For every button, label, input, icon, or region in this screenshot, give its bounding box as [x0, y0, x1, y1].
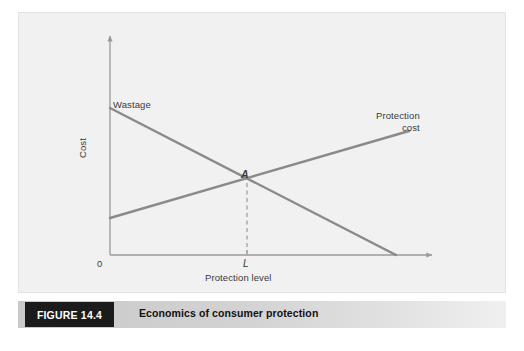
- figure-caption-text: Economics of consumer protection: [139, 307, 318, 319]
- wastage-line: [110, 108, 396, 255]
- x-axis-title: Protection level: [205, 272, 272, 283]
- origin-label: 0: [97, 258, 102, 269]
- protection-cost-series-label: Protection cost: [376, 110, 420, 134]
- economics-of-consumer-protection-chart: [0, 0, 524, 351]
- intersection-point-label: A: [241, 168, 249, 180]
- figure-number-text: FIGURE 14.4: [37, 309, 102, 321]
- y-axis-title: Cost: [77, 138, 88, 158]
- protection-cost-label-line-2: cost: [376, 122, 420, 134]
- figure-number-badge: FIGURE 14.4: [25, 302, 114, 327]
- wastage-series-label: Wastage: [113, 99, 151, 110]
- protection-cost-label-line-1: Protection: [376, 110, 420, 122]
- figure-screenshot: Wastage Protection cost Cost 0 L A Prote…: [0, 0, 524, 351]
- optimal-level-tick-label: L: [243, 258, 249, 269]
- protection-cost-line: [110, 131, 409, 218]
